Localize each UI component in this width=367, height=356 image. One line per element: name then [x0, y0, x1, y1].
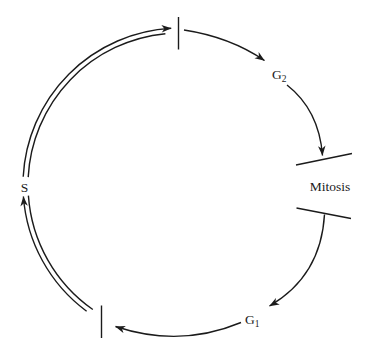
label-g1-base: G: [245, 312, 255, 327]
label-s: S: [21, 180, 29, 195]
s-phase-outer-arc-lower: [23, 197, 86, 312]
arrow-top-to-g2: [184, 30, 265, 61]
cell-cycle-diagram: G2 Mitosis G1 S: [0, 0, 367, 356]
label-g2: G2: [272, 67, 287, 84]
label-mitosis: Mitosis: [310, 179, 351, 194]
boundary-tick-mitosis-upper: [296, 154, 352, 166]
cell-cycle-svg: G2 Mitosis G1 S: [0, 0, 367, 356]
arrow-g2-to-mitosis: [287, 85, 323, 156]
arrow-g1-to-bottom: [116, 323, 242, 337]
label-g1: G1: [245, 312, 260, 329]
label-g2-base: G: [272, 67, 282, 82]
s-phase-inner-arc-upper: [28, 34, 165, 177]
label-g1-subscript: 1: [255, 319, 260, 329]
s-phase-outer-arc-upper: [23, 28, 171, 177]
arrow-mitosis-to-g1: [270, 215, 325, 307]
label-g2-subscript: 2: [282, 74, 287, 84]
